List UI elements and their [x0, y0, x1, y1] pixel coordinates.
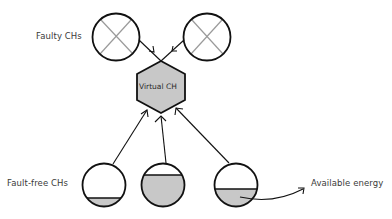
edge-fault-free-3: [175, 108, 229, 163]
cross-icon: [191, 20, 222, 54]
cross-icon: [100, 20, 131, 54]
edge-fault-free-1: [113, 110, 148, 164]
fault-free-chs-label: Fault-free CHs: [7, 178, 68, 188]
fault-free-ch-node-1: [82, 164, 126, 209]
edge-faulty-2: [161, 40, 184, 61]
faulty-chs-label: Faulty CHs: [36, 31, 82, 41]
faulty-ch-node-2: [184, 14, 231, 61]
available-energy-label: Available energy: [311, 178, 383, 188]
edge-fault-free-2: [155, 116, 166, 163]
fault-free-ch-node-3: [214, 164, 258, 210]
arrowhead-icon: [149, 46, 154, 52]
faulty-ch-node-1: [93, 14, 140, 61]
edge-faulty-1: [139, 40, 161, 61]
cross-icon: [192, 20, 223, 54]
arrowhead-icon: [155, 116, 166, 122]
virtual-ch-label: Virtual CH: [139, 82, 177, 91]
fault-free-ch-node-2: [141, 164, 185, 209]
cross-icon: [101, 20, 133, 54]
energy-level-fill: [141, 175, 185, 208]
